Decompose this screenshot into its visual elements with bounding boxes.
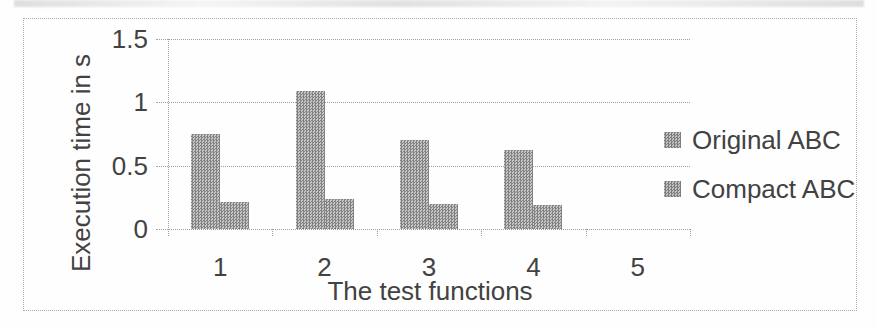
x-axis-tickmark xyxy=(272,229,273,236)
legend-label: Original ABC xyxy=(692,126,841,154)
legend-swatch-icon xyxy=(664,132,681,148)
legend-label: Compact ABC xyxy=(692,175,855,203)
legend-item-original-abc: Original ABC xyxy=(664,126,841,154)
gridline-1.5 xyxy=(156,39,690,40)
scanned-bar-chart-figure: 00.511.5 12345 Execution time in s The t… xyxy=(0,0,876,328)
x-axis-tickmark xyxy=(377,229,378,236)
gridline-1 xyxy=(156,102,690,103)
scan-artifact-smudge xyxy=(14,0,864,7)
bar-compact-abc-cat1 xyxy=(220,202,249,229)
x-axis-tickmark xyxy=(586,229,587,236)
x-axis-title: The test functions xyxy=(327,276,532,307)
gridline-0 xyxy=(156,229,690,230)
bar-compact-abc-cat2 xyxy=(325,199,354,229)
y-tick-label: 1.5 xyxy=(58,25,148,53)
y-axis-line xyxy=(168,39,169,236)
x-axis-tickmark xyxy=(690,229,691,236)
bar-compact-abc-cat4 xyxy=(533,205,562,229)
bar-original-abc-cat1 xyxy=(191,134,220,229)
bar-original-abc-cat3 xyxy=(400,140,429,229)
x-tick-label-5: 5 xyxy=(608,253,668,281)
y-axis-title: Execution time in s xyxy=(66,54,97,272)
bar-compact-abc-cat3 xyxy=(429,204,458,229)
bar-original-abc-cat2 xyxy=(296,91,325,229)
legend-item-compact-abc: Compact ABC xyxy=(664,175,855,203)
x-tick-label-1: 1 xyxy=(190,253,250,281)
legend-swatch-icon xyxy=(664,181,681,197)
bar-original-abc-cat4 xyxy=(504,150,533,229)
x-axis-tickmark xyxy=(481,229,482,236)
